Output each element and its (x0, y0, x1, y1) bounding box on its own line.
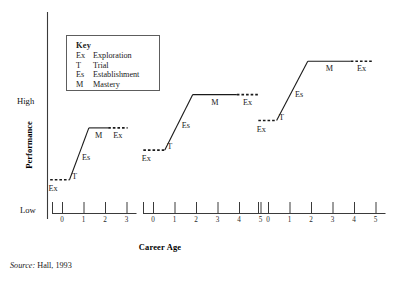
x-tick-label: 4 (237, 216, 241, 224)
key-entry-abbr: M (76, 80, 93, 90)
x-tick-label: 3 (125, 216, 129, 224)
x-tick-label: 1 (173, 216, 177, 224)
y-axis-high-label: High (17, 96, 34, 106)
stage-label-ex: Ex (49, 184, 58, 193)
stage-label-ex: Ex (243, 98, 252, 107)
stage-label-ex: Ex (113, 131, 122, 140)
x-tick-label: 0 (151, 216, 155, 224)
key-entry: EsEstablishment (76, 70, 159, 80)
x-tick-label: 3 (216, 216, 220, 224)
stage-label-m: M (326, 64, 334, 73)
stage-label-t: T (167, 142, 172, 151)
x-tick-label: 1 (288, 216, 292, 224)
key-legend-box: Key ExExplorationTTrialEsEstablishmentMM… (66, 35, 160, 91)
stage-label-t: T (279, 113, 284, 122)
x-tick-label: 2 (103, 216, 107, 224)
key-entry-name: Exploration (93, 51, 132, 61)
x-tick-label: 4 (352, 216, 356, 224)
key-entry-abbr: Ex (76, 51, 93, 61)
x-tick-label: 2 (194, 216, 198, 224)
figure-canvas: 0123012345012345 ExTMExEsExTMExEsExTMExE… (0, 0, 401, 284)
key-entry-abbr: Es (76, 70, 93, 80)
stage-label-t: T (72, 172, 77, 181)
career-cycles-chart: 0123012345012345 ExTMExEsExTMExEsExTMExE… (0, 0, 401, 284)
stage-label-ex: Ex (257, 125, 266, 134)
stage-label-es: Es (182, 121, 190, 130)
key-entry: TTrial (76, 61, 159, 71)
key-entry-list: ExExplorationTTrialEsEstablishmentMMaste… (76, 51, 159, 89)
key-entry: MMastery (76, 80, 159, 90)
key-entry-name: Trial (93, 61, 109, 71)
stage-label-m: M (95, 131, 103, 140)
key-entry: ExExploration (76, 51, 159, 61)
x-axis-title: Career Age (0, 243, 320, 252)
key-entry-name: Establishment (93, 70, 139, 80)
source-note-text: Hall, 1993 (35, 261, 72, 270)
x-tick-label: 5 (259, 216, 263, 224)
x-tick-labels-group: 0123012345012345 (60, 216, 378, 224)
x-tick-label: 3 (331, 216, 335, 224)
x-tick-label: 5 (374, 216, 378, 224)
key-title: Key (76, 41, 159, 51)
stage-label-ex: Ex (357, 64, 366, 73)
key-entry-name: Mastery (93, 80, 120, 90)
stage-label-m: M (211, 98, 219, 107)
x-tick-label: 0 (60, 216, 64, 224)
x-tick-label: 2 (309, 216, 313, 224)
source-note-prefix: Source: (10, 261, 35, 270)
y-axis-title: Performance (24, 110, 34, 180)
x-axes-group (52, 202, 386, 214)
x-tick-label: 0 (266, 216, 270, 224)
source-note: Source: Hall, 1993 (10, 261, 72, 270)
key-entry-abbr: T (76, 61, 93, 71)
stage-label-es: Es (82, 153, 90, 162)
stage-label-ex: Ex (142, 154, 151, 163)
x-tick-label: 1 (82, 216, 86, 224)
y-axis-low-label: Low (20, 205, 36, 215)
stage-label-es: Es (295, 90, 303, 99)
